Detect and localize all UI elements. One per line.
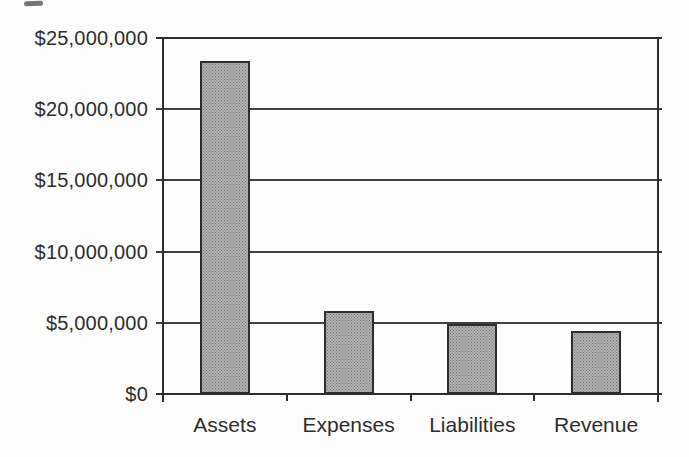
y-axis-tick-label: $25,000,000 xyxy=(0,27,148,49)
bar-liabilities xyxy=(447,324,497,394)
bar-chart: $0$5,000,000$10,000,000$15,000,000$20,00… xyxy=(0,0,689,457)
x-axis-label-expenses: Expenses xyxy=(287,413,411,437)
x-axis-tick xyxy=(410,394,412,401)
bar-revenue xyxy=(571,331,621,394)
gridline-5 xyxy=(156,37,662,39)
x-axis-label-revenue: Revenue xyxy=(534,413,658,437)
x-axis-label-liabilities: Liabilities xyxy=(411,413,535,437)
x-axis-tick xyxy=(533,394,535,401)
x-axis-tick xyxy=(286,394,288,401)
plot-right-border xyxy=(657,37,659,402)
x-axis-label-assets: Assets xyxy=(163,413,287,437)
scanned-bar-chart-figure: $0$5,000,000$10,000,000$15,000,000$20,00… xyxy=(0,0,689,457)
y-axis-tick-label: $10,000,000 xyxy=(0,241,148,263)
y-axis-tick-label: $0 xyxy=(0,383,148,405)
y-axis-tick-label: $15,000,000 xyxy=(0,169,148,191)
y-axis-tick-label: $5,000,000 xyxy=(0,312,148,334)
y-axis-tick-label: $20,000,000 xyxy=(0,98,148,120)
y-axis-line xyxy=(162,37,164,402)
bar-expenses xyxy=(324,311,374,394)
bar-assets xyxy=(200,61,250,394)
